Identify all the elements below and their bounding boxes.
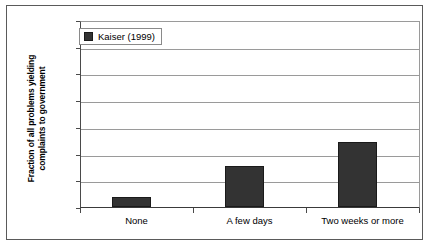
x-axis-label-none: None [80,215,193,227]
gridline-0.3 [81,49,419,50]
gridline-0.2 [81,102,419,103]
y-axis-title-line-1: Fraction of all problems yielding [26,19,37,219]
legend-label-kaiser-1999: Kaiser (1999) [98,32,155,42]
bar-none[interactable] [112,197,151,207]
legend-swatch-kaiser-1999 [84,32,93,41]
chart-screenshot: Fraction of all problems yielding compla… [0,0,431,250]
x-axis-label-two-weeks-or-more: Two weeks or more [306,215,419,227]
gridline-0.15 [81,129,419,130]
y-axis-title-line-2: complaints to government [36,19,47,219]
x-tick-mark-end [419,208,420,213]
bar-a-few-days[interactable] [225,166,264,207]
x-tick-mark-start [80,208,81,213]
gridline-0.25 [81,75,419,76]
x-tick-mark-1 [193,208,194,213]
y-axis-title: Fraction of all problems yielding compla… [26,19,47,219]
x-tick-mark-2 [306,208,307,213]
plot-area [80,21,420,208]
bar-two-weeks-or-more[interactable] [338,142,377,207]
x-axis-label-a-few-days: A few days [193,215,306,227]
legend[interactable]: Kaiser (1999) [79,28,162,45]
